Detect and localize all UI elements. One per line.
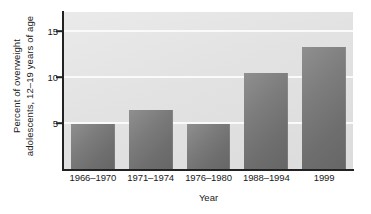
bar-1971–1974 — [129, 110, 173, 169]
y-tick-mark-10 — [56, 76, 63, 78]
x-axis-tick-labels: 1966–19701971–19741976–19801988–19941999 — [64, 172, 353, 188]
bar-chart-figure: adolescents, 12–19 years of age Percent … — [0, 0, 371, 214]
x-tick-label-1999: 1999 — [314, 172, 335, 183]
bars-group — [64, 12, 353, 169]
y-tick-mark-15 — [56, 30, 63, 32]
x-axis-line — [62, 169, 354, 171]
x-tick-label-1988–1994: 1988–1994 — [243, 172, 290, 183]
y-axis-tick-labels: 51015 — [38, 0, 58, 172]
y-axis-tick-marks — [56, 0, 64, 172]
x-axis-title: Year — [64, 192, 353, 203]
bar-1976–1980 — [187, 124, 231, 169]
bar-1999 — [302, 47, 346, 169]
plot-area — [64, 12, 353, 169]
y-axis-title-line-1: Percent of overweight — [10, 39, 23, 133]
bar-1966–1970 — [71, 124, 115, 169]
bar-1988–1994 — [244, 73, 288, 169]
x-tick-label-1966–1970: 1966–1970 — [70, 172, 117, 183]
x-tick-label-1976–1980: 1976–1980 — [185, 172, 232, 183]
y-tick-mark-5 — [56, 122, 63, 124]
x-tick-label-1971–1974: 1971–1974 — [127, 172, 174, 183]
y-axis-title-line-2: adolescents, 12–19 years of age — [23, 16, 36, 156]
